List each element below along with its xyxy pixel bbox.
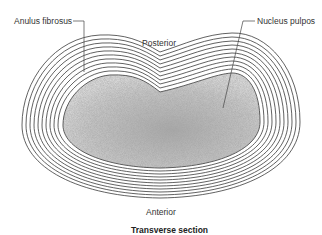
nucleus-pulposus-label: Nucleus pulpos [257, 17, 315, 26]
posterior-label: Posterior [142, 39, 176, 48]
anterior-label: Anterior [146, 208, 176, 217]
anulus-fibrosus-label: Anulus fibrosus [14, 17, 72, 26]
figure-caption: Transverse section [131, 226, 208, 235]
disc-diagram [0, 0, 322, 235]
